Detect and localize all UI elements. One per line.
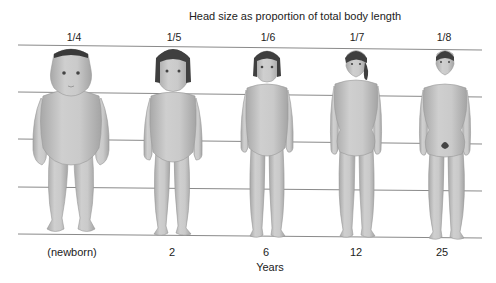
x-axis-label: Years: [240, 261, 300, 273]
age-label-newborn: (newborn): [42, 246, 102, 258]
grid-line-1: [18, 45, 482, 50]
proportion-label-age-12: 1/7: [342, 31, 372, 43]
figure-age-2: [144, 49, 202, 235]
age-label-2: 2: [142, 246, 202, 258]
figure-age-6: [241, 51, 293, 237]
proportion-label-age-6: 1/6: [253, 31, 283, 43]
proportion-label-age-25: 1/8: [429, 31, 459, 43]
figure-newborn: [33, 49, 109, 232]
figure-age-25: [419, 51, 470, 240]
proportion-label-newborn: 1/4: [59, 31, 89, 43]
figure-age-12: [330, 51, 381, 238]
age-label-6: 6: [236, 246, 296, 258]
proportion-label-age-2: 1/5: [159, 31, 189, 43]
age-label-12: 12: [326, 246, 386, 258]
age-label-25: 25: [412, 246, 472, 258]
diagram-title: Head size as proportion of total body le…: [150, 10, 440, 22]
